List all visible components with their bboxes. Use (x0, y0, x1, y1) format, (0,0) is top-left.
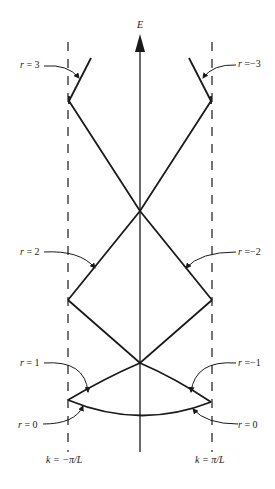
energy-axis (135, 34, 145, 452)
arrow-up-icon (135, 34, 145, 52)
band-r3-right-segment (189, 58, 211, 101)
leader-r0-right (193, 409, 238, 424)
leader-r3-right (203, 65, 236, 78)
label-r0-left: r = 0 (18, 419, 38, 430)
label-r0-right: r = 0 (238, 419, 258, 430)
label-r1-right: r =−1 (238, 357, 261, 368)
label-k-left: k = −π/L (46, 454, 83, 465)
label-k-right: k = π/L (195, 454, 225, 465)
leader-r0-left (43, 406, 83, 424)
leader-r3-left (44, 66, 79, 78)
label-r3-right: r =−3 (238, 58, 261, 69)
band-r3-left-segment (69, 58, 91, 101)
leader-r1-right (191, 363, 236, 392)
label-r3-left: r = 3 (20, 59, 40, 70)
leader-r1-left (44, 363, 88, 392)
leader-r2-left (44, 252, 95, 268)
leader-r2-right (186, 252, 236, 268)
band-diagram: E r = 3 r =−3 r = 2 r =−2 r = 1 r =−1 r … (0, 0, 275, 489)
energy-axis-label: E (136, 19, 143, 30)
label-r2-left: r = 2 (20, 246, 40, 257)
label-r1-left: r = 1 (20, 357, 40, 368)
label-r2-right: r =−2 (238, 246, 261, 257)
